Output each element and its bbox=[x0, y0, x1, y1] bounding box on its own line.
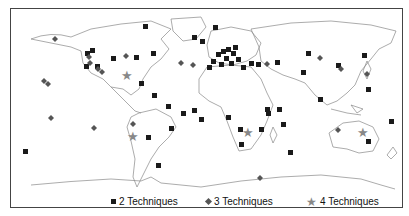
svg-text:★: ★ bbox=[121, 68, 133, 83]
world-map: ★ ★ ★ ★ bbox=[11, 9, 404, 209]
svg-text:★: ★ bbox=[242, 125, 254, 140]
legend-item-two: 2 Techniques bbox=[111, 196, 178, 207]
legend-item-three: 3 Techniques bbox=[206, 196, 273, 207]
star-marker-icon: ★ bbox=[306, 197, 317, 207]
svg-text:★: ★ bbox=[357, 125, 369, 140]
markers-three-techniques bbox=[41, 36, 370, 181]
markers-four-techniques: ★ ★ ★ ★ bbox=[121, 68, 369, 144]
markers-two-techniques bbox=[23, 24, 394, 168]
legend-label: 3 Techniques bbox=[214, 196, 273, 207]
legend-label: 2 Techniques bbox=[119, 196, 178, 207]
square-marker-icon bbox=[111, 199, 116, 204]
legend-item-four: ★ 4 Techniques bbox=[306, 196, 379, 207]
coastlines bbox=[31, 17, 397, 189]
map-frame: ★ ★ ★ ★ 2 Techniques 3 Techniques ★ 4 Te… bbox=[10, 8, 403, 208]
map-legend: 2 Techniques 3 Techniques ★ 4 Techniques bbox=[11, 194, 404, 210]
legend-label: 4 Techniques bbox=[320, 196, 379, 207]
diamond-marker-icon bbox=[205, 198, 212, 205]
svg-text:★: ★ bbox=[127, 129, 139, 144]
